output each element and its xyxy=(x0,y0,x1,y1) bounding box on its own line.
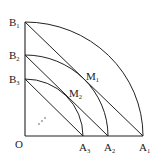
label-origin: O xyxy=(15,138,23,150)
geometry-diagram: B1 B2 B3 O A3 A2 A1 M1 M2 xyxy=(0,0,158,156)
label-a3: A3 xyxy=(79,141,90,154)
label-m2: M2 xyxy=(69,87,82,100)
label-a2: A2 xyxy=(104,141,115,154)
ellipsis-dot xyxy=(41,120,42,121)
ellipsis-dot xyxy=(44,117,45,118)
ellipsis-dot xyxy=(38,123,39,124)
label-b1: B1 xyxy=(9,16,20,29)
chord-a2-b2 xyxy=(25,55,108,136)
diagram-canvas: B1 B2 B3 O A3 A2 A1 M1 M2 xyxy=(0,0,158,156)
chord-a1-b1 xyxy=(25,22,143,136)
label-a1: A1 xyxy=(139,141,150,154)
label-b3: B3 xyxy=(9,73,20,86)
label-m1: M1 xyxy=(86,70,99,83)
label-b2: B2 xyxy=(9,49,20,62)
